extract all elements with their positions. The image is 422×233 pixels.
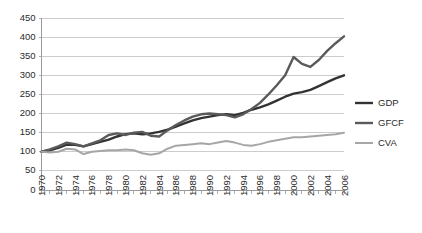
y-axis-tick-label: 450 [20,12,36,23]
x-axis-tick-label: 1990 [204,175,215,196]
x-axis-tick-label: 1986 [170,175,181,196]
x-axis-labels: 1970197219741976197819801982198419861988… [36,175,350,196]
series-group [42,36,345,154]
x-axis-tick-label: 1974 [70,175,81,196]
x-axis-tick-label: 1982 [137,175,148,196]
y-axis-tick-label: 350 [20,50,36,61]
chart-canvas: 050100150200250300350400450 197019721974… [0,0,422,233]
x-axis-tick-label: 1978 [103,175,114,196]
x-axis-tick-label: 2006 [339,175,350,196]
legend-label-cva: CVA [378,137,397,148]
x-axis-tick-label: 1984 [154,175,165,196]
y-axis-tick-label: 100 [20,145,36,156]
x-axis-tick-label: 1976 [86,175,97,196]
x-axis-tick-label: 1992 [221,175,232,196]
x-axis-tick-label: 2002 [305,175,316,196]
y-axis-tick-label: 300 [20,69,36,80]
x-axis-tick-label: 1980 [120,175,131,196]
y-axis-tick-label: 50 [25,164,36,175]
y-axis-labels: 050100150200250300350400450 [20,12,36,195]
x-axis-tick-label: 1988 [187,175,198,196]
gridlines-group [42,18,345,171]
x-axis-tick-label: 1972 [53,175,64,196]
x-axis-tick-label: 1994 [238,175,249,196]
y-axis-tick-label: 250 [20,88,36,99]
y-axis-tick-label: 0 [30,184,35,195]
x-axis-tick-label: 1996 [254,175,265,196]
x-axis-tick-label: 2000 [288,175,299,196]
legend-label-gfcf: GFCF [378,117,404,128]
x-axis-tick-label: 2004 [322,175,333,196]
y-axis-tick-label: 200 [20,107,36,118]
line-chart: 050100150200250300350400450 197019721974… [0,0,422,233]
y-axis-tick-label: 400 [20,31,36,42]
y-axis-tick-label: 150 [20,126,36,137]
legend-label-gdp: GDP [378,97,399,108]
x-axis-tick-label: 1998 [271,175,282,196]
chart-legend: GDPGFCFCVA [355,97,404,148]
x-axis-tick-label: 1970 [36,175,47,196]
